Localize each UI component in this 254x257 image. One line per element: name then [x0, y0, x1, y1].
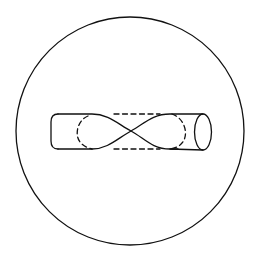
- cylinder-bottom-right-edge: [170, 149, 203, 150]
- diagram-svg: [0, 0, 254, 257]
- cylinder-left-end: [51, 114, 58, 149]
- right-end-ellipse: [195, 114, 212, 150]
- diagram-canvas: Twisted cylinder (figure-eight cross-sec…: [0, 0, 254, 257]
- right-hidden-arc: [170, 114, 186, 149]
- cylinder-top-edge: [58, 114, 178, 149]
- left-hidden-arc: [77, 116, 92, 149]
